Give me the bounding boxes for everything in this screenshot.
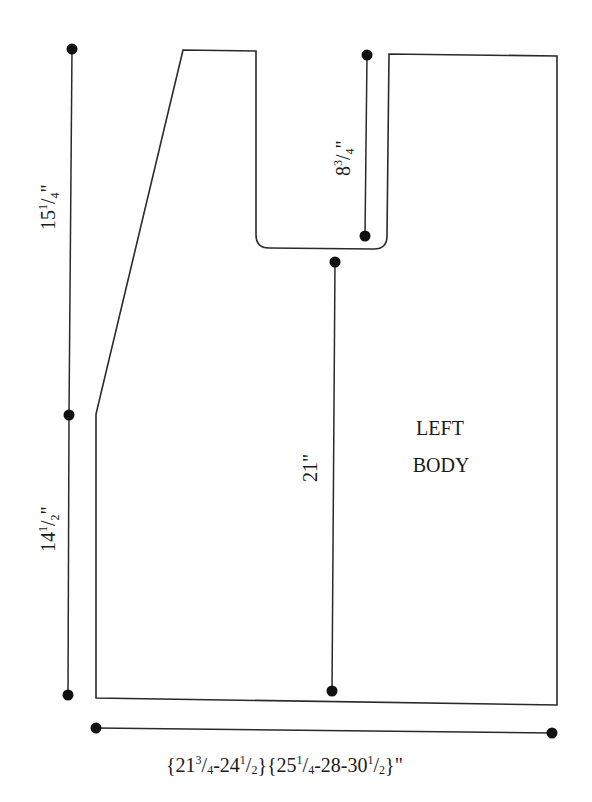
piece-name-line-1: LEFT bbox=[416, 417, 464, 439]
schematic-diagram: 151/4" 141/2" 83/4" 21" LEFT BODY {213/4… bbox=[0, 0, 592, 802]
upper-side-measurement-label: 151/4" bbox=[36, 184, 62, 230]
left-body-outline bbox=[96, 50, 557, 705]
center-bottom-dot bbox=[327, 686, 338, 697]
width-left-dot bbox=[91, 723, 102, 734]
center-length-measurement-label: 21" bbox=[299, 454, 321, 482]
piece-name-line-2: BODY bbox=[413, 454, 470, 476]
width-right-dot bbox=[547, 728, 558, 739]
lower-side-measurement-label: 141/2" bbox=[36, 506, 62, 552]
lower-side-measure-line bbox=[68, 415, 69, 695]
center-length-measure-line bbox=[332, 262, 335, 691]
neck-depth-measurement-label: 83/4" bbox=[331, 140, 357, 176]
upper-side-measure-line bbox=[69, 49, 72, 415]
neck-depth-measure-line bbox=[365, 55, 367, 236]
side-mid-dot bbox=[64, 410, 75, 421]
upper-side-top-dot bbox=[67, 44, 78, 55]
center-top-dot bbox=[330, 257, 341, 268]
lower-side-bottom-dot bbox=[63, 690, 74, 701]
width-measure-line bbox=[96, 728, 552, 733]
width-measurement-label: {213/4-241/2}{251/4-28-301/2}" bbox=[166, 753, 403, 777]
neck-bottom-dot bbox=[360, 231, 371, 242]
neck-top-dot bbox=[362, 50, 373, 61]
